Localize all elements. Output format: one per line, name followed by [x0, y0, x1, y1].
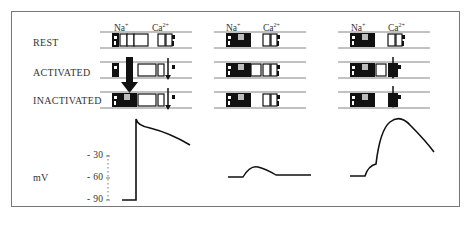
- trace-panel-1: [122, 119, 190, 200]
- trace-panel-3: [350, 119, 434, 176]
- panel-1-channels: [100, 32, 192, 110]
- diagram-graphics: [0, 0, 471, 225]
- trace-panel-2: [228, 167, 311, 177]
- panel-2-channels: [214, 32, 306, 108]
- panel-3-channels: [338, 32, 430, 108]
